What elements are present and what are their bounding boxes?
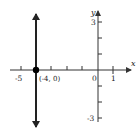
x-tick-label-1: 1 [111,74,116,83]
x-tick-label-neg5: -5 [15,74,23,83]
coordinate-graph: x y -5 0 1 3 -3 (-4, 0) [0,0,139,133]
point-neg4-0 [33,67,39,73]
y-axis-label: y [90,8,96,17]
x-tick-label-0: 0 [92,74,97,83]
y-tick-label-3: 3 [91,18,96,27]
y-tick-label-neg3: -3 [87,114,95,123]
x-axis-label: x [131,59,136,68]
point-label: (-4, 0) [39,75,60,83]
